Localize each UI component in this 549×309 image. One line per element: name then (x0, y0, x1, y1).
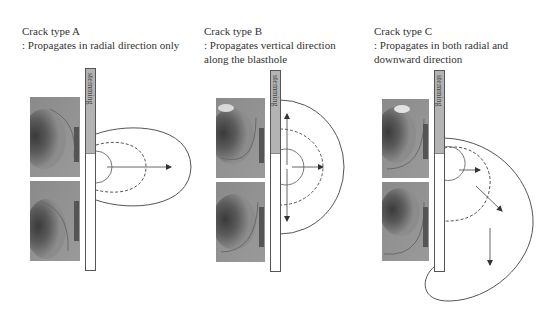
crack-b-stemming-label: stemming (271, 75, 280, 107)
crack-c-stemming-label: stemming (435, 75, 444, 107)
crack-a-diagram (96, 128, 191, 206)
crack-c-dashed-boundary (444, 147, 490, 221)
crack-a-stemming-label: stemming (86, 73, 95, 105)
crack-c-blasthole: stemming (434, 70, 445, 272)
crack-a-blasthole: stemming (85, 68, 96, 271)
crack-c-initial-circle (444, 147, 465, 181)
crack-b-stemming: stemming (271, 71, 280, 154)
crack-b-blasthole: stemming (270, 70, 281, 272)
crack-a-stemming: stemming (86, 69, 95, 154)
crack-b-diagram (280, 100, 344, 234)
crack-c-diagonal-arrow (476, 186, 502, 211)
crack-c-stemming: stemming (435, 71, 444, 154)
